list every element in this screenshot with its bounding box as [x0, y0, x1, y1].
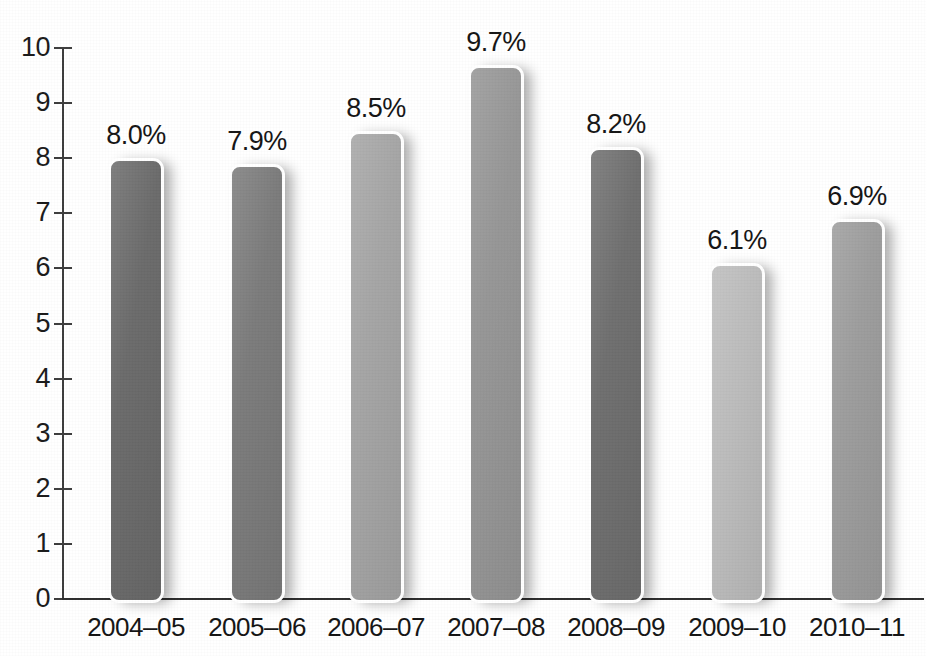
- bar-chart: 109876543210 8.0%2004–057.9%2005–068.5%2…: [0, 0, 926, 656]
- bar-value-label: 7.9%: [197, 128, 317, 155]
- bar-shading: [232, 167, 282, 600]
- x-axis-category-label: 2005–06: [197, 612, 317, 642]
- bar-shading: [471, 68, 521, 600]
- bar-shading: [591, 150, 641, 600]
- x-axis-category-label: 2009–10: [677, 612, 797, 642]
- bar: [348, 131, 404, 603]
- x-axis-category-label: 2008–09: [556, 612, 676, 642]
- x-axis-category-label: 2007–08: [436, 612, 556, 642]
- bar-value-label: 8.0%: [76, 122, 196, 149]
- bar-shading: [712, 266, 762, 600]
- bar-value-label: 8.5%: [316, 95, 436, 122]
- plot-area: 8.0%2004–057.9%2005–068.5%2006–079.7%200…: [0, 0, 926, 656]
- bar: [468, 65, 524, 603]
- bar: [588, 147, 644, 603]
- bar-shading: [111, 161, 161, 600]
- bar: [829, 219, 885, 603]
- bar-shading: [832, 222, 882, 600]
- x-axis-category-label: 2006–07: [316, 612, 436, 642]
- bar-value-label: 6.9%: [797, 183, 917, 210]
- bar-value-label: 6.1%: [677, 227, 797, 254]
- x-axis-category-label: 2004–05: [76, 612, 196, 642]
- bar-value-label: 8.2%: [556, 111, 676, 138]
- bar: [709, 263, 765, 603]
- bar-shading: [351, 134, 401, 600]
- bar: [229, 164, 285, 603]
- bar-value-label: 9.7%: [436, 29, 556, 56]
- x-axis-category-label: 2010–11: [797, 612, 917, 642]
- bar: [108, 158, 164, 603]
